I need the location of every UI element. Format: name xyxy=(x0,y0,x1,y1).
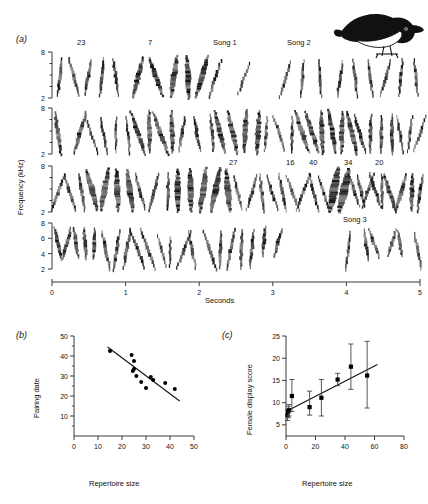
panel-a-yaxis-row-3: 8 2 xyxy=(30,164,54,216)
svg-text:4: 4 xyxy=(41,251,45,258)
svg-text:8: 8 xyxy=(41,105,45,112)
sonogram-row-2 xyxy=(52,106,424,158)
svg-text:8: 8 xyxy=(41,49,45,56)
svg-text:20: 20 xyxy=(312,443,320,450)
panel-a-label: (a) xyxy=(16,34,27,44)
svg-text:20: 20 xyxy=(118,443,126,450)
svg-text:0: 0 xyxy=(72,443,76,450)
svg-text:15: 15 xyxy=(272,377,280,384)
svg-text:2: 2 xyxy=(197,289,201,296)
song-label-7: 7 xyxy=(148,38,152,47)
panel-a-time-axis: 012345 xyxy=(52,278,424,300)
svg-text:25: 25 xyxy=(272,333,280,340)
svg-text:40: 40 xyxy=(341,443,349,450)
song-label-23: 23 xyxy=(77,38,85,47)
svg-text:30: 30 xyxy=(142,443,150,450)
figure-root: (a) Frequency xyxy=(0,0,428,504)
svg-text:50: 50 xyxy=(60,333,68,340)
svg-text:0: 0 xyxy=(50,289,54,296)
song-label-song-1: Song 1 xyxy=(213,38,237,47)
svg-text:0: 0 xyxy=(284,443,288,450)
svg-text:2: 2 xyxy=(41,95,45,102)
panel-a-yaxis-row-1: 8 2 xyxy=(30,50,54,102)
sonogram-row-4 xyxy=(52,221,424,273)
panel-c-label: (c) xyxy=(222,330,233,340)
panel-b-xlabel: Repertoire size xyxy=(89,479,139,488)
svg-text:10: 10 xyxy=(272,399,280,406)
panel-a-yaxis-row-2: 8 2 xyxy=(30,106,54,158)
svg-text:20: 20 xyxy=(60,393,68,400)
svg-text:1: 1 xyxy=(124,289,128,296)
svg-text:30: 30 xyxy=(60,373,68,380)
svg-text:2: 2 xyxy=(41,151,45,158)
panel-a-yaxis-row-4: 8 6 4 2 xyxy=(30,221,54,273)
svg-text:5: 5 xyxy=(418,289,422,296)
panel-a-xlabel: Seconds xyxy=(205,296,234,305)
svg-text:6: 6 xyxy=(41,235,45,242)
svg-text:20: 20 xyxy=(272,355,280,362)
panel-c-plot: 510152025020406080 xyxy=(254,328,419,468)
svg-text:40: 40 xyxy=(166,443,174,450)
svg-text:50: 50 xyxy=(190,443,198,450)
svg-text:4: 4 xyxy=(344,289,348,296)
svg-text:3: 3 xyxy=(271,289,275,296)
panel-b-ylabel: Pairing date xyxy=(32,378,41,418)
svg-text:80: 80 xyxy=(400,443,408,450)
svg-text:2: 2 xyxy=(41,209,45,216)
sonogram-row-1 xyxy=(52,50,424,102)
panel-c-ylabel: Female display score xyxy=(245,364,254,435)
svg-text:10: 10 xyxy=(94,443,102,450)
sonogram-row-3 xyxy=(52,164,424,216)
svg-text:10: 10 xyxy=(60,413,68,420)
panel-a-ylabel: Frequency (kHz) xyxy=(16,160,25,215)
svg-text:60: 60 xyxy=(371,443,379,450)
svg-text:8: 8 xyxy=(41,220,45,227)
panel-b-plot: 102030405001020304050 xyxy=(42,328,202,468)
svg-text:2: 2 xyxy=(41,266,45,273)
panel-c-xlabel: Repertoire size xyxy=(302,479,352,488)
panel-b-label: (b) xyxy=(16,330,27,340)
svg-text:5: 5 xyxy=(276,421,280,428)
song-label-song-2: Song 2 xyxy=(287,38,311,47)
svg-text:40: 40 xyxy=(60,353,68,360)
svg-text:8: 8 xyxy=(41,163,45,170)
